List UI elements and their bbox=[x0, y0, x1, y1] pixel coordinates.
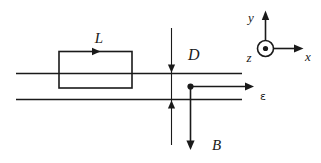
loop-current-arrow-icon bbox=[92, 48, 101, 56]
diagram-canvas: L D B ε bbox=[0, 0, 321, 163]
gap-distance-label: D bbox=[187, 46, 200, 63]
strip-field-arrow bbox=[191, 83, 255, 91]
field-origin-dot bbox=[187, 83, 193, 89]
physics-diagram-figure: L D B ε bbox=[0, 0, 321, 163]
gap-dimension-arrowhead-up-icon bbox=[168, 100, 175, 108]
axis-x-arrow bbox=[274, 45, 304, 53]
axis-z-out-of-page-icon bbox=[258, 41, 274, 57]
magnetic-field-label: B bbox=[212, 137, 221, 153]
current-loop-rectangle bbox=[59, 52, 132, 89]
axis-z-label: z bbox=[245, 50, 251, 65]
strip-field-label: ε bbox=[260, 90, 266, 103]
magnetic-field-arrow bbox=[186, 87, 194, 151]
gap-dimension-arrowhead-down-icon bbox=[168, 65, 175, 73]
loop-length-label: L bbox=[94, 30, 103, 46]
axis-y-label: y bbox=[246, 10, 254, 25]
axis-y-arrow bbox=[262, 11, 269, 41]
axis-x-label: x bbox=[304, 49, 311, 64]
